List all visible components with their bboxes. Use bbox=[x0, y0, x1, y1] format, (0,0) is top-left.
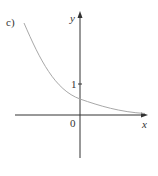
panel-label: c) bbox=[6, 17, 15, 28]
y-axis-arrow-icon bbox=[78, 11, 83, 18]
graph-canvas bbox=[0, 0, 158, 176]
y-tick-label: 1 bbox=[71, 79, 77, 90]
x-axis-label: x bbox=[142, 119, 147, 130]
exponential-curve bbox=[24, 23, 145, 114]
origin-label: 0 bbox=[70, 118, 76, 129]
y-axis-label: y bbox=[70, 13, 75, 24]
